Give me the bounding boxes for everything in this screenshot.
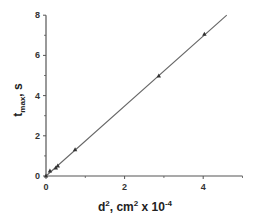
x-tick-label: 4 — [201, 182, 206, 192]
y-tick-label: 2 — [35, 131, 40, 141]
x-tick-label: 2 — [122, 182, 127, 192]
x-axis: 024 — [43, 176, 242, 192]
y-tick-label: 6 — [35, 50, 40, 60]
x-tick-label: 0 — [43, 182, 48, 192]
x-axis-label: d2, cm2 x 10-4 — [98, 199, 173, 214]
y-tick-label: 0 — [35, 171, 40, 181]
y-axis-label: tmax, s — [11, 83, 27, 117]
y-tick-label: 4 — [35, 91, 40, 101]
y-tick-label: 8 — [35, 10, 40, 20]
fit-line — [46, 15, 227, 176]
y-axis: 02468 — [35, 10, 46, 181]
chart: 02468 024 tmax, s d2, cm2 x 10-4 — [0, 0, 256, 220]
